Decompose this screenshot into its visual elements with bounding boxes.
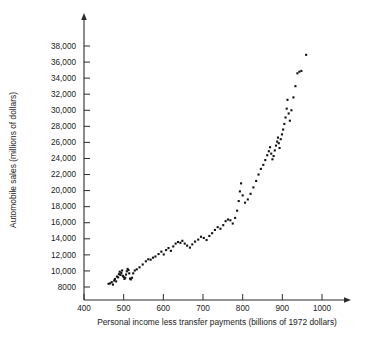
data-point (165, 249, 167, 251)
data-point (277, 137, 279, 139)
data-point (240, 182, 242, 184)
data-point (147, 258, 149, 260)
data-point (239, 190, 241, 192)
data-point (281, 133, 283, 135)
data-point (234, 217, 236, 219)
data-point (250, 193, 252, 195)
y-axis-tick-label: 30,000 (51, 106, 76, 115)
x-axis-tick-label: 900 (275, 304, 289, 313)
data-point (271, 158, 273, 160)
data-point (119, 274, 121, 276)
x-axis-arrow-icon (344, 297, 351, 303)
data-point (227, 218, 229, 220)
data-point (211, 232, 213, 234)
data-point (124, 277, 126, 279)
y-axis-tick-label: 20,000 (51, 186, 76, 195)
y-axis-tick-label: 38,000 (51, 42, 76, 51)
data-point (132, 272, 134, 274)
data-point (208, 235, 210, 237)
x-axis-tick-label: 1000 (313, 304, 332, 313)
x-axis-ticks: 4005006007008009001000 (77, 294, 331, 313)
data-point (127, 269, 129, 271)
y-axis-tick-label: 36,000 (51, 58, 76, 67)
data-point (288, 112, 290, 114)
data-point (260, 168, 262, 170)
data-point (294, 85, 296, 87)
data-point (257, 173, 259, 175)
data-point (264, 159, 266, 161)
data-point (280, 138, 282, 140)
data-point (219, 228, 221, 230)
data-points (108, 54, 308, 286)
data-point (131, 277, 133, 279)
data-point (160, 251, 162, 253)
data-point (275, 145, 277, 147)
data-point (305, 54, 307, 56)
data-point (296, 72, 298, 74)
data-point (247, 198, 249, 200)
data-point (298, 71, 300, 73)
data-point (238, 200, 240, 202)
data-point (279, 147, 281, 149)
data-point (290, 109, 292, 111)
data-point (186, 245, 188, 247)
x-axis-tick-label: 700 (196, 304, 210, 313)
data-point (163, 253, 165, 255)
data-point (150, 259, 152, 261)
y-axis-tick-label: 16,000 (51, 218, 76, 227)
data-point (274, 149, 276, 151)
data-point (181, 240, 183, 242)
y-axis-tick-label: 12,000 (51, 251, 76, 260)
y-axis-tick-label: 24,000 (51, 154, 76, 163)
data-point (117, 276, 119, 278)
x-axis-tick-label: 800 (236, 304, 250, 313)
data-point (191, 243, 193, 245)
data-point (268, 150, 270, 152)
y-axis-tick-label: 18,000 (51, 202, 76, 211)
scatter-plot-figure: 800010,00012,00014,00016,00018,00020,000… (0, 0, 367, 340)
data-point (242, 194, 244, 196)
data-point (236, 210, 238, 212)
data-point (252, 186, 254, 188)
data-point (197, 239, 199, 241)
data-point (121, 269, 123, 271)
y-axis-arrow-icon (81, 13, 87, 20)
data-point (200, 236, 202, 238)
y-axis-tick-label: 14,000 (51, 234, 76, 243)
data-point (269, 146, 271, 148)
data-point (189, 247, 191, 249)
data-point (286, 108, 288, 110)
data-point (214, 229, 216, 231)
data-point (203, 237, 205, 239)
data-point (112, 284, 114, 286)
x-axis-tick-label: 600 (156, 304, 170, 313)
data-point (152, 257, 154, 259)
x-axis-tick-label: 400 (77, 304, 91, 313)
data-point (177, 241, 179, 243)
data-point (179, 242, 181, 244)
data-point (262, 164, 264, 166)
y-axis-title: Automobile sales (millions of dollars) (8, 92, 18, 228)
data-point (206, 239, 208, 241)
x-axis-tick-label: 500 (117, 304, 131, 313)
data-point (128, 272, 130, 274)
data-point (145, 260, 147, 262)
data-point (286, 99, 288, 101)
data-point (270, 153, 272, 155)
data-point (244, 202, 246, 204)
y-axis-tick-label: 22,000 (51, 170, 76, 179)
data-point (284, 116, 286, 118)
data-point (138, 266, 140, 268)
data-point (154, 255, 156, 257)
data-point (283, 123, 285, 125)
y-axis-tick-label: 8000 (58, 283, 77, 292)
data-point (136, 268, 138, 270)
data-point (175, 243, 177, 245)
data-point (278, 142, 280, 144)
data-point (142, 263, 144, 265)
axes (81, 13, 351, 303)
data-point (255, 180, 257, 182)
chart-canvas: 800010,00012,00014,00016,00018,00020,000… (0, 0, 367, 340)
data-point (134, 269, 136, 271)
data-point (229, 219, 231, 221)
